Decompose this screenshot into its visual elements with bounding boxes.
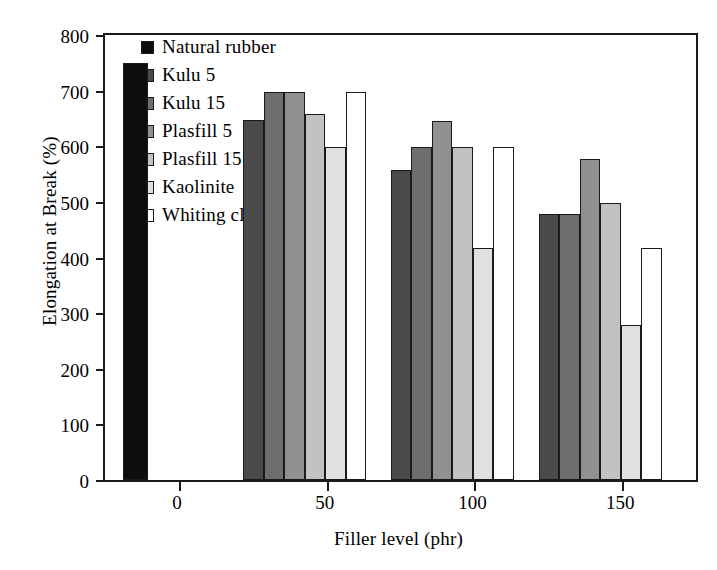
x-tick-label: 0 xyxy=(137,492,217,514)
y-tick: 600 xyxy=(96,146,105,148)
legend-item: Kulu 5 xyxy=(141,62,276,88)
y-tick: 200 xyxy=(96,369,105,371)
bar xyxy=(493,147,514,480)
bar xyxy=(600,203,621,480)
bar xyxy=(305,114,326,480)
y-tick: 700 xyxy=(96,91,105,93)
legend-item: Kulu 15 xyxy=(141,90,276,116)
y-tick-label: 600 xyxy=(61,137,90,159)
y-tick: 800 xyxy=(96,35,105,37)
bar xyxy=(559,214,580,480)
bar xyxy=(621,325,642,480)
x-tick-label: 100 xyxy=(432,492,512,514)
bar xyxy=(539,214,560,480)
bar xyxy=(432,121,453,480)
bar xyxy=(391,170,412,480)
y-tick: 400 xyxy=(96,258,105,260)
x-axis-label: Filler level (phr) xyxy=(103,528,694,550)
chart-figure: Elongation at Break (%) Filler level (ph… xyxy=(0,0,717,570)
x-tick-label: 150 xyxy=(580,492,660,514)
legend-label: Kaolinite xyxy=(162,176,235,198)
y-tick-label: 400 xyxy=(61,249,90,271)
bar xyxy=(264,92,285,480)
x-tick xyxy=(622,480,624,491)
bar xyxy=(346,92,367,480)
y-tick-label: 0 xyxy=(80,471,90,493)
y-tick: 0 xyxy=(96,480,105,482)
x-tick xyxy=(474,480,476,491)
y-axis-label: Elongation at Break (%) xyxy=(39,31,61,431)
x-tick-label: 50 xyxy=(285,492,365,514)
x-tick xyxy=(327,480,329,491)
y-tick-label: 800 xyxy=(61,26,90,48)
y-tick-label: 200 xyxy=(61,360,90,382)
bar xyxy=(473,248,494,481)
y-tick-label: 100 xyxy=(61,415,90,437)
legend-label: Plasfill 15 xyxy=(162,148,242,170)
y-tick: 500 xyxy=(96,202,105,204)
legend-label: Natural rubber xyxy=(162,36,276,58)
legend-item: Natural rubber xyxy=(141,34,276,60)
legend-swatch-icon xyxy=(141,41,154,54)
bar xyxy=(325,147,346,480)
legend-label: Kulu 15 xyxy=(162,92,225,114)
bar xyxy=(243,120,264,480)
bar xyxy=(641,248,662,481)
y-tick: 300 xyxy=(96,313,105,315)
y-tick-label: 300 xyxy=(61,304,90,326)
y-tick-label: 700 xyxy=(61,82,90,104)
bar xyxy=(580,159,601,481)
bar xyxy=(123,63,148,480)
bar xyxy=(452,147,473,480)
legend-label: Kulu 5 xyxy=(162,64,215,86)
bar xyxy=(284,92,305,480)
x-tick xyxy=(179,480,181,491)
legend-label: Plasfill 5 xyxy=(162,120,232,142)
bar xyxy=(411,147,432,480)
y-tick-label: 500 xyxy=(61,193,90,215)
y-tick: 100 xyxy=(96,424,105,426)
